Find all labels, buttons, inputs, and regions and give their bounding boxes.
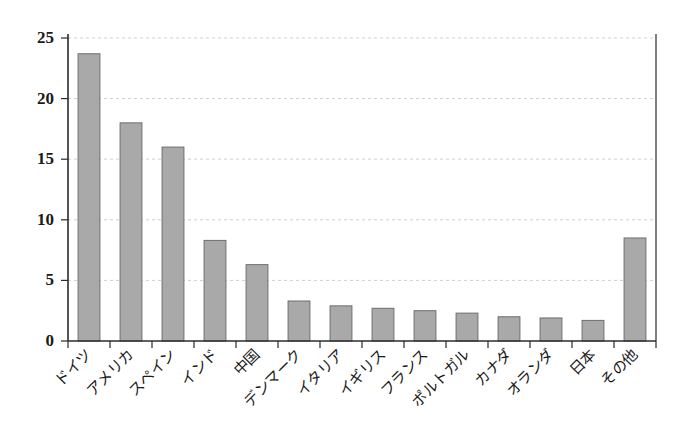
y-axis-ticks: 0510152025 [37, 28, 68, 350]
x-tick-label-12: 日本 [566, 345, 599, 378]
gridlines [68, 38, 656, 280]
x-axis-labels: ドイツアメリカスペインインド中国デンマークイタリアイギリスフランスポルトガルカナ… [51, 345, 641, 410]
bar-9[interactable] [456, 313, 478, 341]
bar-7[interactable] [372, 308, 394, 341]
bar-6[interactable] [330, 306, 352, 341]
bar-13[interactable] [624, 238, 646, 341]
bar-1[interactable] [120, 123, 142, 341]
bar-12[interactable] [582, 320, 604, 341]
bar-4[interactable] [246, 265, 268, 341]
bar-8[interactable] [414, 311, 436, 341]
y-tick-label-5: 5 [46, 270, 55, 289]
bar-10[interactable] [498, 317, 520, 341]
x-tick-label-2: スペイン [125, 345, 179, 399]
bar-2[interactable] [162, 147, 184, 341]
bar-5[interactable] [288, 301, 310, 341]
x-tick-label-13: その他 [597, 345, 641, 389]
bars-group [78, 54, 646, 341]
bar-3[interactable] [204, 240, 226, 341]
y-tick-label-0: 0 [46, 331, 55, 350]
bar-chart-figure: 0510152025ドイツアメリカスペインインド中国デンマークイタリアイギリスフ… [0, 0, 688, 445]
y-tick-label-15: 15 [37, 149, 54, 168]
y-tick-label-10: 10 [37, 210, 54, 229]
y-tick-label-25: 25 [37, 28, 54, 47]
bar-0[interactable] [78, 54, 100, 341]
chart-canvas: 0510152025ドイツアメリカスペインインド中国デンマークイタリアイギリスフ… [0, 0, 688, 445]
axes [68, 34, 656, 341]
x-tick-label-3: インド [177, 345, 221, 389]
bar-11[interactable] [540, 318, 562, 341]
y-tick-label-20: 20 [37, 89, 54, 108]
x-axis-ticks [68, 341, 656, 348]
x-tick-label-4: 中国 [230, 345, 263, 378]
